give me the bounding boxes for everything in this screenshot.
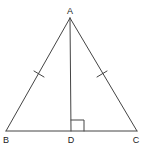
side-ab xyxy=(6,18,70,131)
right-angle-marker xyxy=(71,120,84,131)
altitude-ad xyxy=(70,18,71,131)
triangle-diagram: A B C D xyxy=(0,0,141,150)
vertex-label-d: D xyxy=(68,135,75,145)
vertex-label-b: B xyxy=(3,135,9,145)
vertex-label-a: A xyxy=(67,6,73,16)
vertex-label-c: C xyxy=(133,135,140,145)
side-ac xyxy=(70,18,137,131)
